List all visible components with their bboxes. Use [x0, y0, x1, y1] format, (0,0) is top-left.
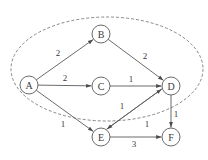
node-f: F [162, 128, 180, 146]
graph-diagram: 221211113 ABCDEF [0, 0, 208, 160]
node-b: B [92, 25, 110, 43]
node-label: F [168, 132, 174, 143]
edge-a-to-c [38, 85, 92, 86]
edge-weight-label: 1 [61, 119, 66, 129]
edge-weight-labels: 221211113 [56, 48, 179, 149]
edge-b-to-d [108, 39, 163, 80]
node-label: E [98, 132, 104, 143]
node-c: C [92, 77, 110, 95]
edge-weight-label: 1 [174, 109, 179, 119]
arrow-icon [108, 39, 163, 80]
arrow-icon [38, 85, 92, 86]
arrow-icon [107, 89, 162, 129]
edge-weight-label: 2 [56, 48, 61, 58]
node-e: E [92, 128, 110, 146]
edge-weight-label: 3 [132, 139, 137, 149]
node-label: A [25, 80, 33, 91]
edge-weight-label: 1 [145, 119, 150, 129]
edge-weight-label: 1 [120, 101, 125, 111]
node-a: A [20, 76, 38, 94]
node-label: B [98, 29, 105, 40]
edge-d-to-e [107, 89, 162, 129]
edge-weight-label: 1 [129, 74, 134, 84]
edge-weight-label: 2 [143, 51, 148, 61]
node-label: D [167, 81, 174, 92]
node-label: C [98, 81, 105, 92]
edge-weight-label: 2 [63, 73, 68, 83]
node-d: D [162, 77, 180, 95]
